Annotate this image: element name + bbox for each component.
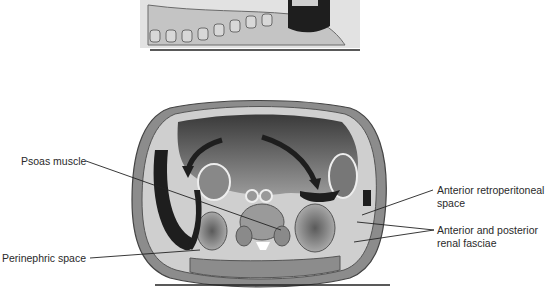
- label-perinephric-space: Perinephric space: [2, 252, 86, 264]
- label-renal-fasciae-1: Anterior and posterior: [437, 224, 538, 236]
- sagittal-section: [140, 0, 360, 50]
- label-psoas-muscle: Psoas muscle: [21, 155, 86, 167]
- label-anterior-retroperitoneal-1: Anterior retroperitoneal: [437, 184, 544, 196]
- axial-section: [132, 101, 390, 288]
- label-anterior-retroperitoneal-2: space: [437, 197, 465, 209]
- label-renal-fasciae-2: renal fasciae: [437, 237, 497, 249]
